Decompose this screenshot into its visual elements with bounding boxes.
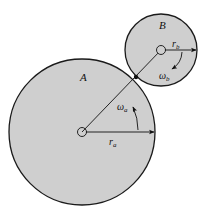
gear-b-label: B	[159, 19, 166, 31]
contact-point	[134, 75, 138, 79]
gear-a-label: A	[79, 71, 87, 83]
gear-b-hub	[157, 46, 166, 55]
gear-diagram: A B ra rb ωa ωb	[0, 0, 211, 216]
